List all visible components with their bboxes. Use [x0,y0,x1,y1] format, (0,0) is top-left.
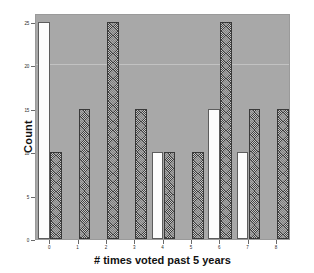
bar-7-light [237,152,249,239]
x-tick-label: 0 [43,245,55,250]
bar-0-light [38,22,50,239]
y-tick-label: 20 [15,64,29,69]
x-tick-mark [248,240,249,244]
y-tick-label: 25 [15,20,29,25]
bar-chart: Count 0510152025012345678 # times voted … [0,0,314,273]
plot-area [35,14,290,240]
gridline [36,64,289,65]
x-tick-label: 4 [157,245,169,250]
y-tick-label: 0 [15,238,29,243]
x-axis-title: # times voted past 5 years [35,254,290,266]
bar-5-dark [192,152,204,239]
bar-8-dark [277,109,289,239]
x-tick-label: 1 [72,245,84,250]
y-tick-mark [31,153,35,154]
x-tick-mark [276,240,277,244]
bar-0-dark [50,152,62,239]
x-tick-label: 8 [270,245,282,250]
x-tick-label: 5 [185,245,197,250]
x-tick-mark [219,240,220,244]
x-tick-label: 6 [213,245,225,250]
y-tick-mark [31,110,35,111]
y-tick-mark [31,197,35,198]
y-tick-label: 5 [15,194,29,199]
bar-2-dark [107,22,119,239]
x-tick-mark [78,240,79,244]
bar-4-dark [164,152,176,239]
x-tick-mark [49,240,50,244]
x-tick-mark [106,240,107,244]
bar-6-light [208,109,220,239]
y-tick-label: 10 [15,151,29,156]
x-tick-label: 7 [242,245,254,250]
bar-3-dark [135,109,147,239]
x-tick-mark [134,240,135,244]
y-tick-mark [31,23,35,24]
x-tick-label: 3 [128,245,140,250]
x-tick-label: 2 [100,245,112,250]
bar-4-light [152,152,164,239]
x-tick-mark [163,240,164,244]
bar-7-dark [249,109,261,239]
y-tick-mark [31,240,35,241]
y-tick-label: 15 [15,107,29,112]
bar-6-dark [220,22,232,239]
x-tick-mark [191,240,192,244]
bar-1-dark [79,109,91,239]
y-tick-mark [31,66,35,67]
